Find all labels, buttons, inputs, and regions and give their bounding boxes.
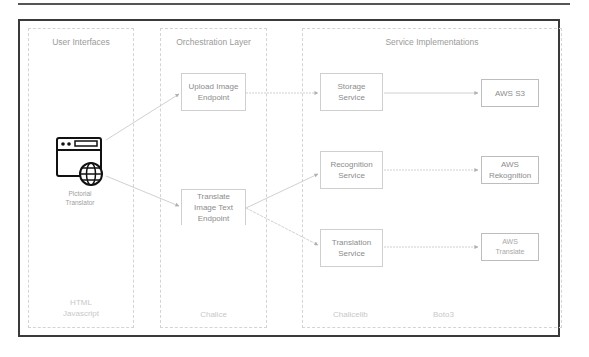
label-line-2: Image Text <box>194 202 233 213</box>
client-caption: Pictorial Translator <box>50 189 110 207</box>
label-line-3: Endpoint <box>194 213 233 224</box>
label-line-2: Service <box>332 248 371 259</box>
label-line-1: AWS <box>489 159 531 170</box>
translate-image-text-endpoint: Translate Image Text Endpoint <box>181 189 246 225</box>
aws-s3: AWS S3 <box>481 79 539 107</box>
label-line-2: Translate <box>496 247 525 257</box>
label-line-1: AWS <box>496 237 525 247</box>
caption-line-1: Pictorial <box>50 189 110 198</box>
label-line-1: Translation <box>332 237 371 248</box>
aws-translate: AWS Translate <box>481 233 539 261</box>
recognition-service: Recognition Service <box>320 151 383 189</box>
label-line-2: Endpoint <box>189 92 239 103</box>
upload-image-endpoint: Upload Image Endpoint <box>181 73 246 111</box>
storage-service: Storage Service <box>320 73 383 111</box>
aws-rekognition: AWS Rekognition <box>481 156 539 184</box>
caption-line-2: Translator <box>50 198 110 207</box>
label-line-1: AWS S3 <box>495 88 525 99</box>
label-line-2: Rekognition <box>489 170 531 181</box>
label-line-2: Service <box>337 92 365 103</box>
label-line-1: Translate <box>194 191 233 202</box>
label-line-2: Service <box>330 170 372 181</box>
label-line-1: Upload Image <box>189 81 239 92</box>
browser-globe-icon <box>55 136 105 186</box>
label-line-1: Storage <box>337 81 365 92</box>
translation-service: Translation Service <box>320 229 383 267</box>
label-line-1: Recognition <box>330 159 372 170</box>
